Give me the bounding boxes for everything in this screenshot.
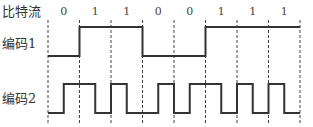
bit-label: 0 [155, 5, 162, 18]
bit-label: 1 [281, 5, 288, 18]
code1-label: 编码1 [2, 36, 36, 51]
bit-label: 1 [249, 5, 256, 18]
bit-label: 0 [186, 5, 193, 18]
bitstream-label: 比特流 [2, 4, 41, 19]
code2-waveform [48, 84, 300, 113]
bit-label: 1 [123, 5, 130, 18]
code2-label: 编码2 [2, 91, 36, 106]
encoding-diagram: 比特流 编码1 编码2 01100111 [0, 0, 313, 127]
bit-label: 1 [92, 5, 99, 18]
bit-label: 0 [60, 5, 67, 18]
bit-label: 1 [218, 5, 225, 18]
